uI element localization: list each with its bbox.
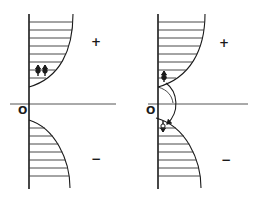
left-lower-curve [29, 120, 70, 188]
left-upper-curve [29, 14, 73, 87]
left-upper-hatching [29, 22, 73, 78]
right-panel [148, 14, 248, 189]
left-origin-label: O [18, 105, 27, 116]
left-dipole-icon-1 [36, 65, 41, 76]
right-positive-sign: + [219, 37, 229, 49]
right-upper-hatching [158, 22, 205, 78]
left-positive-sign: + [91, 36, 101, 48]
right-negative-sign: − [221, 154, 231, 166]
diagram-canvas [0, 0, 256, 198]
right-origin-label: O [146, 105, 155, 116]
right-dipole-icon-upper [162, 71, 167, 82]
left-dipole-icon-2 [43, 65, 48, 76]
left-negative-sign: − [91, 153, 101, 165]
left-lower-hatching [29, 128, 69, 176]
right-dipole-icon-lower [161, 121, 166, 132]
right-upper-boundary-tail [158, 87, 173, 103]
